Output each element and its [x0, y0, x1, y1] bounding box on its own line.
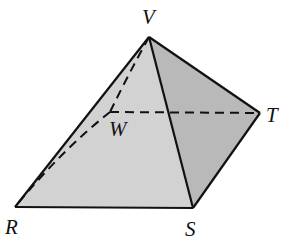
vertex-label-w: W — [109, 117, 129, 141]
vertex-label-v: V — [142, 5, 157, 29]
vertex-label-r: R — [4, 215, 18, 239]
vertex-label-s: S — [185, 217, 196, 241]
pyramid-diagram: V R S T W — [0, 0, 292, 241]
vertex-label-t: T — [266, 103, 279, 127]
edge-rs — [15, 207, 193, 208]
pyramid-svg: V R S T W — [0, 0, 292, 241]
